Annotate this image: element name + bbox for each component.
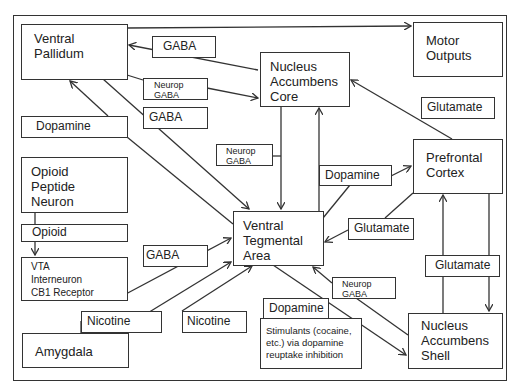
node-stimulants: Stimulants (cocaine, etc.) via dopamine … [260,318,362,369]
node-nucleus-accumbens-core: Nucleus Accumbens Core [260,52,350,107]
label-gaba-vp-to-vta: GABA [143,107,208,129]
label-glutamate-shell-pfc: Glutamate [425,255,500,277]
label-neurop-gaba-shell-to-vta: Neurop GABA [332,277,396,299]
node-vta-interneuron: VTA Interneuron CB1 Receptor [21,257,128,301]
node-motor-outputs: Motor Outputs [413,22,503,77]
node-prefrontal-cortex: Prefrontal Cortex [413,139,503,194]
label-nicotine-vta: Nicotine [182,311,247,333]
label-gaba-interneuron-to-vta: GABA [143,245,208,267]
node-ventral-tegmental-area: Ventral Tegmental Area [233,211,324,266]
label-nicotine-amygdala: Nicotine [81,311,162,333]
label-gaba-nac-to-vp: GABA [152,36,216,58]
node-opioid-peptide-neuron: Opioid Peptide Neuron [21,157,128,213]
label-glutamate-pfc-to-vta: Glutamate [348,218,414,240]
label-dopamine-vta-to-vp: Dopamine [21,116,128,138]
label-glutamate-pfc-to-nac: Glutamate [421,97,495,119]
label-opioid: Opioid [21,224,128,242]
label-neurop-gaba-nac-to-vta: Neurop GABA [216,144,273,166]
label-dopamine-vta-to-shell: Dopamine [263,298,329,319]
node-amygdala: Amygdala [22,333,129,368]
node-ventral-pallidum: Ventral Pallidum [21,24,128,80]
label-dopamine-vta-to-pfc: Dopamine [319,165,392,186]
label-neurop-gaba-vp-to-nac: Neurop GABA [143,78,208,100]
node-nucleus-accumbens-shell: Nucleus Accumbens Shell [408,313,503,369]
